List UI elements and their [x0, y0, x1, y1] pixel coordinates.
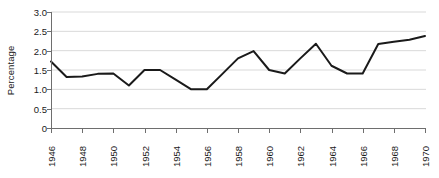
y-axis-tick-label: 2.0: [34, 45, 47, 56]
x-axis-tick-label: 1958: [232, 135, 244, 175]
x-axis-tick-text: 1968: [389, 146, 400, 167]
x-axis-tick-label: 1960: [263, 135, 275, 175]
x-axis-tick-label: 1964: [326, 135, 338, 175]
x-axis-tick-mark: [425, 129, 426, 133]
x-axis-tick-text: 1946: [46, 146, 57, 167]
y-axis-tick-mark: [47, 12, 51, 13]
x-axis-tick-label: 1950: [107, 135, 119, 175]
y-axis-tick-mark: [47, 89, 51, 90]
x-axis-tick-text: 1950: [108, 146, 119, 167]
x-axis-tick-mark: [332, 129, 333, 133]
y-axis-tick-label: 2.5: [34, 26, 47, 37]
x-axis-tick-mark: [363, 129, 364, 133]
x-axis-tick-mark: [238, 129, 239, 133]
x-axis-tick-labels: 1946194819501952195419561958196019621964…: [0, 129, 439, 178]
x-axis-tick-mark: [82, 129, 83, 133]
y-axis-tick-mark: [47, 70, 51, 71]
x-axis-tick-label: 1954: [170, 135, 182, 175]
x-axis-tick-label: 1952: [139, 135, 151, 175]
x-axis-tick-label: 1966: [357, 135, 369, 175]
x-axis-tick-label: 1970: [419, 135, 431, 175]
line-chart: Percentage 3.02.52.01.51.00.50 194619481…: [0, 0, 439, 178]
x-axis-tick-mark: [113, 129, 114, 133]
y-axis-tick-mark: [47, 31, 51, 32]
x-axis-tick-mark: [269, 129, 270, 133]
x-axis-tick-label: 1956: [201, 135, 213, 175]
x-axis-tick-text: 1964: [327, 146, 338, 167]
y-axis-tick-labels: 3.02.52.01.51.00.50: [22, 0, 50, 140]
y-axis-tick-label: 3.0: [34, 7, 47, 18]
x-axis-tick-label: 1948: [76, 135, 88, 175]
x-axis-tick-text: 1970: [420, 146, 431, 167]
x-axis-tick-text: 1966: [358, 146, 369, 167]
y-axis-title-label: Percentage: [6, 45, 17, 95]
plot-area: [51, 12, 425, 128]
y-axis-tick-label: 1.5: [34, 65, 47, 76]
plot-svg: [51, 12, 425, 128]
x-axis-tick-text: 1952: [140, 146, 151, 167]
x-axis-tick-text: 1954: [171, 146, 182, 167]
x-axis-tick-text: 1958: [233, 146, 244, 167]
y-axis-tick-mark: [47, 51, 51, 52]
y-axis-title: Percentage: [0, 0, 22, 140]
x-axis-tick-mark: [300, 129, 301, 133]
y-axis-tick-mark: [47, 109, 51, 110]
x-axis-tick-text: 1960: [264, 146, 275, 167]
y-axis-tick-label: 1.0: [34, 84, 47, 95]
x-axis-tick-label: 1946: [45, 135, 57, 175]
x-axis-tick-mark: [394, 129, 395, 133]
x-axis-tick-text: 1962: [295, 146, 306, 167]
x-axis-tick-mark: [207, 129, 208, 133]
x-axis-tick-text: 1956: [202, 146, 213, 167]
y-axis-line: [51, 12, 52, 129]
y-axis-tick-label: 0.5: [34, 103, 47, 114]
x-axis-tick-mark: [176, 129, 177, 133]
x-axis-tick-mark: [145, 129, 146, 133]
x-axis-tick-mark: [51, 129, 52, 133]
x-axis-tick-label: 1962: [294, 135, 306, 175]
x-axis-tick-label: 1968: [388, 135, 400, 175]
data-series-line: [51, 36, 425, 89]
x-axis-tick-text: 1948: [77, 146, 88, 167]
